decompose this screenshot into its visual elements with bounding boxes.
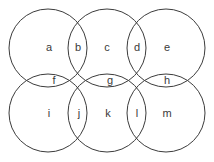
label-d: d: [130, 42, 144, 53]
label-e: e: [160, 42, 174, 53]
label-c: c: [100, 42, 114, 53]
label-k: k: [101, 108, 115, 119]
label-b: b: [71, 42, 85, 53]
label-g: g: [103, 75, 117, 86]
label-h: h: [160, 75, 174, 86]
label-m: m: [160, 108, 174, 119]
label-a: a: [42, 42, 56, 53]
label-i: i: [42, 108, 56, 119]
label-j: j: [72, 108, 86, 119]
label-f: f: [47, 75, 61, 86]
label-l: l: [130, 108, 144, 119]
circle-diagram: abcdefghijklm: [0, 0, 214, 162]
